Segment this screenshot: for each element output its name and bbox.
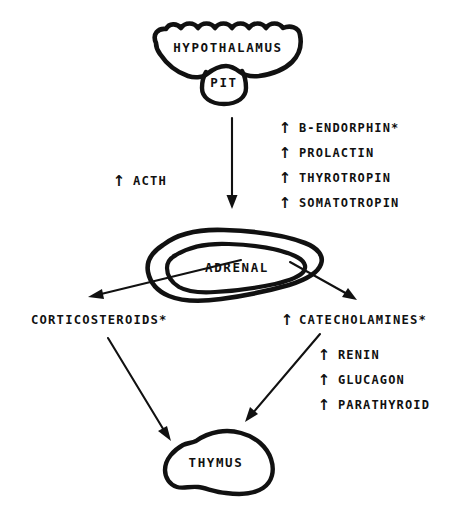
arrow-pituitary-to-adrenal: [227, 118, 238, 209]
b-endorphin-label: B-ENDORPHIN*: [299, 121, 400, 135]
glucagon-up-arrow-icon: ↑: [318, 371, 331, 389]
glucagon-label: GLUCAGON: [338, 373, 405, 387]
acth-label: ACTH: [133, 174, 167, 188]
hypothalamus-label: HYPOTHALAMUS: [173, 40, 283, 55]
endocrine-flow-diagram: HYPOTHALAMUS PIT ↑ ACTH ↑ B-ENDORPHIN* ↑…: [0, 0, 473, 517]
corticosteroids-label-group: CORTICOSTEROIDS*: [31, 313, 168, 327]
catecholamines-up-arrow-icon: ↑: [281, 311, 294, 329]
b-endorphin-up-arrow-icon: ↑: [279, 119, 292, 137]
renin-up-arrow-icon: ↑: [318, 346, 331, 364]
parathyroid-label: PARATHYROID: [338, 398, 430, 412]
arrow-catecholamines-to-thymus: [245, 334, 320, 422]
prolactin-label: PROLACTIN: [299, 146, 374, 160]
catecholamines-label-group: ↑ CATECHOLAMINES*: [281, 311, 427, 329]
catecholamines-label: CATECHOLAMINES*: [299, 313, 427, 327]
catecholamine-associated-list: ↑ RENIN ↑ GLUCAGON ↑ PARATHYROID: [318, 346, 430, 414]
somatotropin-label: SOMATOTROPIN: [299, 196, 400, 210]
pituitary-hormone-list: ↑ B-ENDORPHIN* ↑ PROLACTIN ↑ THYROTROPIN…: [279, 119, 400, 212]
renin-label: RENIN: [338, 348, 380, 362]
thyrotropin-label: THYROTROPIN: [299, 171, 391, 185]
hypothalamus-node: HYPOTHALAMUS: [155, 24, 301, 78]
diagram-canvas: HYPOTHALAMUS PIT ↑ ACTH ↑ B-ENDORPHIN* ↑…: [0, 0, 473, 517]
arrow-corticosteroids-to-thymus: [108, 338, 171, 441]
thymus-label: THYMUS: [189, 455, 244, 470]
prolactin-up-arrow-icon: ↑: [279, 144, 292, 162]
pituitary-label: PIT: [210, 75, 237, 90]
acth-label-group: ↑ ACTH: [113, 172, 167, 190]
parathyroid-up-arrow-icon: ↑: [318, 396, 331, 414]
corticosteroids-label: CORTICOSTEROIDS*: [31, 313, 168, 327]
thymus-node: THYMUS: [165, 431, 273, 494]
pituitary-node: PIT: [202, 71, 246, 104]
acth-up-arrow-icon: ↑: [113, 172, 126, 190]
somatotropin-up-arrow-icon: ↑: [279, 194, 292, 212]
thyrotropin-up-arrow-icon: ↑: [279, 169, 292, 187]
